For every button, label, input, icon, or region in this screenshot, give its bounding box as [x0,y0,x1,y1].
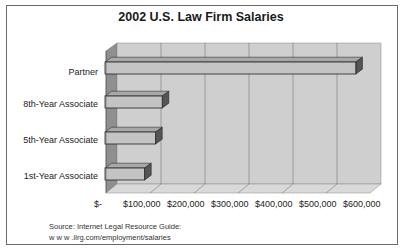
source-line-2: w w w .ilrg.com/employment/salaries [49,233,171,242]
category-label-5th-year: 5th-Year Associate [23,135,98,145]
source-line-1: Source: Internet Legal Resource Guide: [49,222,181,231]
plot-area [0,0,402,252]
bar-5th-year-associate [105,127,162,144]
x-tick-200k: $200,000 [167,199,205,209]
bar-partner [105,57,362,74]
category-label-partner: Partner [68,67,98,77]
bar-8th-year-associate [105,91,169,108]
x-tick-100k: $100,000 [123,199,161,209]
x-tick-600k: $600,000 [343,199,381,209]
category-label-8th-year: 8th-Year Associate [23,99,98,109]
x-tick-300k: $300,000 [211,199,249,209]
bar-1st-year-associate [105,163,151,180]
x-tick-500k: $500,000 [299,199,337,209]
x-tick-400k: $400,000 [255,199,293,209]
x-tick-0: $- [94,199,102,209]
category-label-1st-year: 1st-Year Associate [24,171,98,181]
